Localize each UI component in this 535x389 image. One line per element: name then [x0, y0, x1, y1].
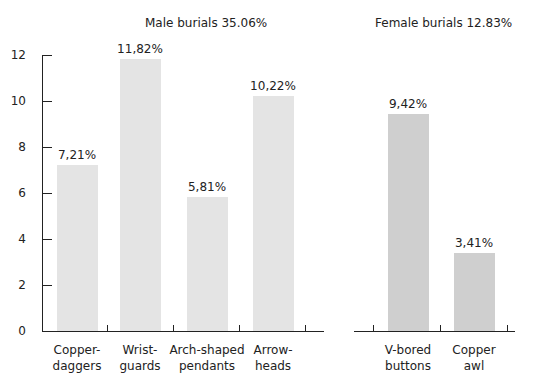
bar-v-bored-buttons [388, 114, 429, 331]
female-x-axis [354, 331, 515, 332]
bar-arch-shaped-pendants [187, 197, 228, 331]
value-label-wrist-guards: 11,82% [105, 42, 175, 56]
y-tick [42, 239, 52, 240]
y-tick-label: 4 [6, 232, 26, 246]
x-tick [239, 325, 240, 332]
bar-arrowheads [253, 96, 294, 331]
y-tick [42, 285, 52, 286]
y-tick-label: 10 [6, 94, 26, 108]
y-tick-label: 2 [6, 278, 26, 292]
value-label-arch-shaped-pendants: 5,81% [172, 180, 242, 194]
y-tick-label: 6 [6, 186, 26, 200]
category-label-line: awl [434, 358, 514, 374]
x-tick [373, 325, 374, 332]
bar-wrist-guards [120, 59, 161, 331]
value-label-arrowheads: 10,22% [238, 79, 308, 93]
category-label-line: Arrow- [233, 342, 313, 358]
y-tick [42, 193, 52, 194]
y-tick-label: 8 [6, 140, 26, 154]
female-chart-title: Female burials 12.83% [375, 16, 512, 30]
value-label-copper-daggers: 7,21% [42, 148, 112, 162]
x-tick [107, 325, 108, 332]
x-tick [305, 325, 306, 332]
x-tick [440, 325, 441, 332]
category-label-line: Copper [434, 342, 514, 358]
category-label-arrowheads: Arrow- heads [233, 342, 313, 374]
y-tick-label: 0 [6, 324, 26, 338]
category-label-copper-awl: Copper awl [434, 342, 514, 374]
value-label-v-bored-buttons: 9,42% [373, 97, 443, 111]
y-tick [42, 101, 52, 102]
male-x-axis [42, 331, 324, 332]
y-tick-label: 12 [6, 48, 26, 62]
y-tick [42, 55, 52, 56]
bar-copper-daggers [57, 165, 98, 331]
value-label-copper-awl: 3,41% [439, 236, 509, 250]
male-chart-title: Male burials 35.06% [145, 16, 267, 30]
x-tick [173, 325, 174, 332]
category-label-line: heads [233, 358, 313, 374]
x-tick [507, 325, 508, 332]
bar-copper-awl [454, 253, 495, 331]
